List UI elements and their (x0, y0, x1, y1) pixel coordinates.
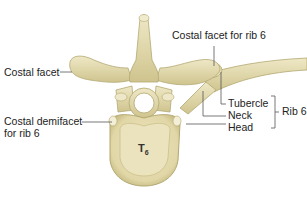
left-transverse-process (70, 56, 132, 82)
label-head: Head (228, 122, 253, 133)
vertebra-diagram: Costal facet Costal facet for rib 6 Cost… (0, 0, 307, 199)
rib-6-neck (180, 82, 216, 114)
vertebra-label: T6 (138, 142, 149, 156)
label-costal-facet: Costal facet (4, 67, 59, 78)
label-tubercle: Tubercle (228, 98, 268, 109)
rib6-bracket (271, 96, 275, 128)
vertebral-foramen (134, 93, 154, 113)
label-costal-facet-rib6: Costal facet for rib 6 (172, 30, 266, 41)
label-rib6: Rib 6 (282, 106, 307, 117)
label-costal-demifacet-line1: Costal demifacet (4, 116, 82, 127)
spinous-process (129, 15, 158, 82)
label-costal-demifacet-line2: for rib 6 (4, 128, 40, 139)
label-neck: Neck (228, 110, 252, 121)
